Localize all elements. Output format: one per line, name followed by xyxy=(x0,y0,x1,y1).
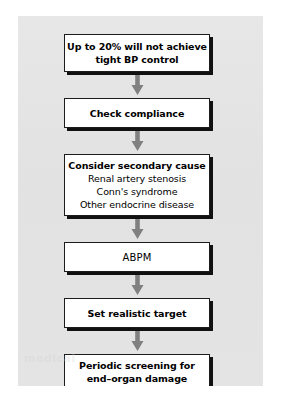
flowchart-node-abpm: ABPM xyxy=(64,242,210,272)
flowchart-node-check-compliance: Check compliance xyxy=(64,98,210,128)
flowchart-node-consider-secondary-cause: Consider secondary cause Renal artery st… xyxy=(64,154,210,216)
diagram-panel: Up to 20% will not achieve tight BP cont… xyxy=(18,16,263,386)
node-text-line: Consider secondary cause xyxy=(65,159,209,172)
page-canvas: Up to 20% will not achieve tight BP cont… xyxy=(0,0,281,402)
node-text-line: Other endocrine disease xyxy=(65,198,209,211)
flowchart-node-set-realistic-target: Set realistic target xyxy=(64,298,210,328)
node-text-line: Check compliance xyxy=(65,107,209,120)
down-arrow-icon xyxy=(130,219,145,239)
node-text-line: Up to 20% will not achieve xyxy=(65,40,209,53)
down-arrow-icon xyxy=(130,75,145,95)
flowchart-node-up-to-20-percent-will-not-achieve-tight-bp-control: Up to 20% will not achieve tight BP cont… xyxy=(64,34,210,72)
node-text-line: ABPM xyxy=(65,251,209,264)
down-arrow-icon xyxy=(130,275,145,295)
node-text-line: Set realistic target xyxy=(65,307,209,320)
node-text-line: Periodic screening for xyxy=(65,359,209,372)
node-text-line: end–organ damage xyxy=(65,372,209,385)
node-text-line: Renal artery stenosis xyxy=(65,172,209,185)
down-arrow-icon xyxy=(130,331,145,351)
flowchart-node-periodic-screening-for-end-organ-damage: Periodic screening for end–organ damage xyxy=(64,354,210,386)
down-arrow-icon xyxy=(130,131,145,151)
node-text-line: tight BP control xyxy=(65,53,209,66)
flowchart: Up to 20% will not achieve tight BP cont… xyxy=(18,16,263,386)
node-text-line: Conn's syndrome xyxy=(65,185,209,198)
